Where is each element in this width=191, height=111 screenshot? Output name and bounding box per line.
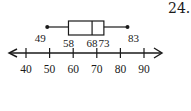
q3-label: 73: [98, 37, 110, 49]
iqr-box: [68, 21, 103, 35]
min-point-icon: [45, 25, 49, 29]
min-label: 49: [35, 32, 47, 44]
tick-label: 80: [115, 63, 127, 75]
max-point-icon: [125, 25, 129, 29]
box-plot-chart: 4958687383 405060708090: [0, 0, 191, 111]
tick-label: 70: [91, 63, 103, 75]
tick-label: 40: [20, 63, 32, 75]
tick-label: 60: [67, 63, 79, 75]
median-label: 68: [87, 37, 99, 49]
max-label: 83: [128, 32, 140, 44]
tick-label: 90: [138, 63, 150, 75]
tick-label: 50: [44, 63, 56, 75]
number-line-axis: 405060708090: [9, 48, 162, 75]
q1-label: 58: [63, 37, 75, 49]
box-and-whisker: 4958687383: [35, 21, 140, 49]
